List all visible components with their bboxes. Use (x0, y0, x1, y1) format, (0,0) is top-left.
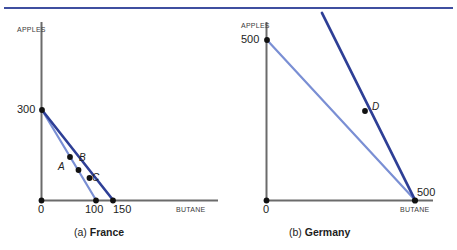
germany-x-tick-500: 500 (417, 186, 435, 198)
germany-point-butane-500 (412, 197, 418, 203)
germany-x-axis-label: BUTANE (400, 206, 429, 213)
chart-panel-germany: APPLES BUTANE 500 0 500 D (b) Germany (228, 0, 457, 250)
germany-caption-prefix: (b) (289, 226, 305, 238)
france-x-tick-100: 100 (85, 203, 103, 215)
figure-root: APPLES BUTANE 300 0 100 150 A B C (a) Fr… (0, 0, 457, 250)
germany-frontier-light (267, 40, 415, 200)
france-frontier-dark (42, 110, 113, 200)
germany-point-d-marker (362, 108, 368, 114)
france-point-apples-intercept (39, 107, 45, 113)
france-point-b-marker (76, 167, 82, 173)
france-point-a-marker (67, 154, 73, 160)
germany-point-apples-intercept (264, 37, 270, 43)
germany-caption: (b) Germany (289, 226, 350, 238)
france-caption: (a) France (74, 226, 124, 238)
france-y-tick-300: 300 (17, 103, 35, 115)
germany-frontier-dark (322, 13, 415, 200)
france-caption-name: France (90, 226, 124, 238)
france-x-tick-150: 150 (113, 203, 131, 215)
germany-x-tick-0: 0 (263, 203, 269, 215)
france-point-label-b: B (79, 152, 86, 163)
germany-caption-name: Germany (305, 226, 351, 238)
france-caption-prefix: (a) (74, 226, 90, 238)
chart-panel-france: APPLES BUTANE 300 0 100 150 A B C (a) Fr… (0, 0, 228, 250)
germany-point-label-d: D (372, 101, 379, 112)
france-y-axis-label: APPLES (17, 26, 46, 33)
france-point-label-a: A (58, 161, 65, 172)
germany-y-axis-label: APPLES (241, 22, 270, 29)
france-x-axis-label: BUTANE (176, 206, 205, 213)
france-x-tick-0: 0 (38, 203, 44, 215)
france-point-label-c: C (92, 172, 99, 183)
germany-y-tick-500: 500 (241, 33, 259, 45)
